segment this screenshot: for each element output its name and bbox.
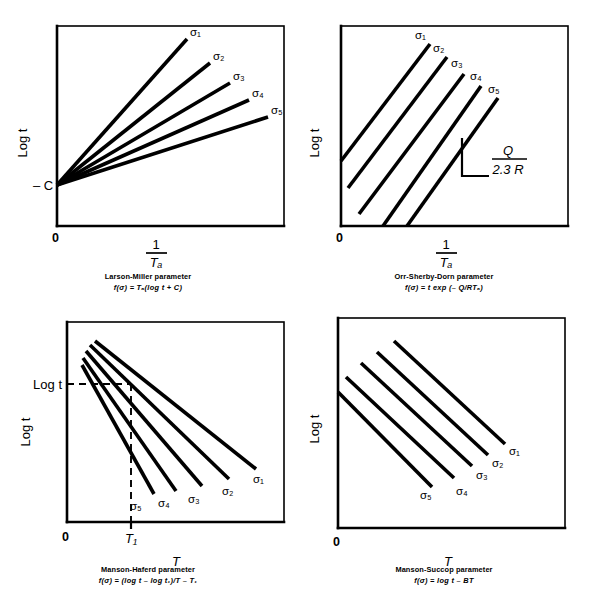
creep-parameter-figure: σ₁ σ₂ σ₃ σ₄ σ₅ – C 0 Log t 1 Tₐ Larson-M… <box>0 0 592 614</box>
data-line-sigma-4 <box>383 86 481 226</box>
data-line-sigma-4 <box>83 358 176 491</box>
data-line-sigma-2 <box>348 57 447 188</box>
caption-name: Manson-Haferd parameter <box>0 565 296 576</box>
slope-annotation-numerator: Q <box>503 143 513 158</box>
panel-manson-succop: σ₁ σ₂ σ₃ σ₄ σ₅ 0 Log t T Manson-Succop p… <box>296 307 592 614</box>
panel-manson-haferd: σ₁ σ₂ σ₃ σ₄ σ₅ Log t T₁ 0 Log t T Manson… <box>0 307 296 614</box>
panel-larson-miller: σ₁ σ₂ σ₃ σ₄ σ₅ – C 0 Log t 1 Tₐ Larson-M… <box>0 0 296 307</box>
intercept-label: – C <box>33 178 53 193</box>
curve-label-sigma-2: σ₂ <box>433 42 445 54</box>
curve-label-sigma-5: σ₅ <box>271 104 283 116</box>
origin-label: 0 <box>336 231 343 245</box>
caption-equation: f(σ) = log t – BT <box>296 576 592 587</box>
curve-label-sigma-1: σ₁ <box>415 29 426 41</box>
curve-label-sigma-4: σ₄ <box>456 485 468 497</box>
caption-equation: f(σ) = Tₐ(log t + C) <box>0 283 296 294</box>
y-axis-label: Log t <box>15 128 30 157</box>
curve-label-sigma-1: σ₁ <box>253 473 264 485</box>
chart-orr-sherby-dorn: σ₁ σ₂ σ₃ σ₄ σ₅ Q 2.3 R 0 Log t 1 Tₐ <box>296 0 592 272</box>
x-axis-label-denominator: Tₐ <box>150 255 163 270</box>
curve-label-sigma-1: σ₁ <box>509 445 520 457</box>
focal-y-label: Log t <box>33 377 62 392</box>
data-line-sigma-3 <box>361 363 472 466</box>
data-line-sigma-5 <box>407 98 498 226</box>
x-axis-label: 1 Tₐ <box>146 237 167 270</box>
curve-label-sigma-5: σ₅ <box>130 500 142 512</box>
curve-label-sigma-4: σ₄ <box>470 70 482 82</box>
slope-annotation-denominator: 2.3 R <box>491 162 523 177</box>
y-axis-label: Log t <box>307 128 322 157</box>
x-axis-label-numerator: 1 <box>442 237 449 252</box>
focal-x-label: T₁ <box>125 531 137 546</box>
slope-annotation: Q 2.3 R <box>491 143 527 177</box>
x-axis-label-denominator: Tₐ <box>440 255 453 270</box>
curve-label-sigma-2: σ₂ <box>222 485 234 497</box>
origin-label: 0 <box>62 530 69 544</box>
data-line-sigma-2 <box>57 63 210 185</box>
data-line-sigma-2 <box>377 352 488 455</box>
curve-label-sigma-3: σ₃ <box>188 493 200 505</box>
y-axis-label: Log t <box>307 414 322 443</box>
curve-label-sigma-2: σ₂ <box>492 457 504 469</box>
data-line-sigma-4 <box>346 377 454 478</box>
data-line-sigma-1 <box>341 44 430 161</box>
curve-label-sigma-3: σ₃ <box>233 70 245 82</box>
x-axis-label: 1 Tₐ <box>436 237 457 270</box>
curve-label-sigma-5: σ₅ <box>488 83 500 95</box>
data-line-sigma-3 <box>57 83 230 185</box>
curve-label-sigma-2: σ₂ <box>213 50 225 62</box>
y-axis-label: Log t <box>18 417 33 446</box>
panel-caption-manson-haferd: Manson-Haferd parameter f(σ) = (log t – … <box>0 565 296 586</box>
x-axis-label-numerator: 1 <box>152 237 159 252</box>
caption-equation: f(σ) = (log t – log t₁)/T – T₁ <box>0 576 296 587</box>
caption-equation: f(σ) = t exp (– Q/RTₐ) <box>296 283 592 294</box>
data-line-sigma-3 <box>359 74 464 214</box>
curve-label-sigma-3: σ₃ <box>476 469 488 481</box>
caption-name: Larson-Miller parameter <box>0 272 296 283</box>
caption-name: Orr-Sherby-Dorn parameter <box>296 272 592 283</box>
panel-caption-larson-miller: Larson-Miller parameter f(σ) = Tₐ(log t … <box>0 272 296 293</box>
data-line-sigma-1 <box>95 341 256 469</box>
panel-orr-sherby-dorn: σ₁ σ₂ σ₃ σ₄ σ₅ Q 2.3 R 0 Log t 1 Tₐ Orr-… <box>296 0 592 307</box>
origin-label: 0 <box>52 231 59 245</box>
panel-caption-orr-sherby-dorn: Orr-Sherby-Dorn parameter f(σ) = t exp (… <box>296 272 592 293</box>
data-line-sigma-3 <box>86 351 202 486</box>
chart-manson-haferd: σ₁ σ₂ σ₃ σ₄ σ₅ Log t T₁ 0 Log t T <box>0 307 296 572</box>
curve-label-sigma-4: σ₄ <box>158 497 170 509</box>
data-line-sigma-5 <box>338 392 432 487</box>
curve-label-sigma-1: σ₁ <box>190 26 201 38</box>
curve-label-sigma-5: σ₅ <box>420 489 432 501</box>
data-line-sigma-2 <box>90 345 229 479</box>
caption-name: Manson-Succop parameter <box>296 565 592 576</box>
origin-label: 0 <box>333 535 340 549</box>
data-line-sigma-4 <box>57 100 249 185</box>
data-line-sigma-1 <box>394 341 505 444</box>
curve-label-sigma-4: σ₄ <box>252 87 264 99</box>
curve-label-sigma-3: σ₃ <box>451 57 463 69</box>
chart-larson-miller: σ₁ σ₂ σ₃ σ₄ σ₅ – C 0 Log t 1 Tₐ <box>0 0 296 272</box>
chart-manson-succop: σ₁ σ₂ σ₃ σ₄ σ₅ 0 Log t T <box>296 307 592 572</box>
panel-caption-manson-succop: Manson-Succop parameter f(σ) = log t – B… <box>296 565 592 586</box>
